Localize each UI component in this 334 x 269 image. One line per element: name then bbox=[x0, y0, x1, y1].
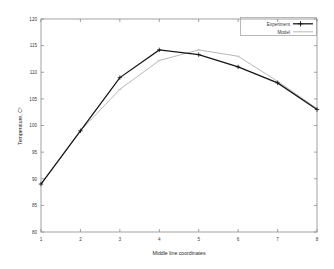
line-chart: 80859095100105110115120 12345678 Middle … bbox=[0, 0, 334, 269]
y-tick-label: 80 bbox=[32, 230, 38, 235]
y-tick-label: 90 bbox=[32, 177, 38, 182]
legend-item-model: Model bbox=[277, 30, 290, 35]
y-tick-label: 100 bbox=[29, 123, 37, 128]
series-line-experiment bbox=[41, 50, 317, 184]
series-line-model bbox=[41, 50, 317, 184]
series-markers-model bbox=[39, 50, 318, 184]
legend-item-experiment: Experiment bbox=[267, 22, 291, 27]
x-tick-label: 6 bbox=[237, 237, 240, 242]
y-axis-label: Temperature, C⁰ bbox=[17, 107, 23, 145]
chart-container: 80859095100105110115120 12345678 Middle … bbox=[0, 0, 334, 269]
x-tick-label: 2 bbox=[79, 237, 82, 242]
x-tick-label: 3 bbox=[119, 237, 122, 242]
y-axis-ticks: 80859095100105110115120 bbox=[29, 17, 317, 235]
plot-frame bbox=[41, 19, 317, 232]
series-markers-experiment bbox=[39, 48, 319, 187]
y-tick-label: 95 bbox=[32, 150, 38, 155]
y-tick-label: 105 bbox=[29, 97, 37, 102]
x-tick-label: 5 bbox=[197, 237, 200, 242]
x-tick-label: 4 bbox=[158, 237, 161, 242]
x-tick-label: 1 bbox=[40, 237, 43, 242]
y-tick-label: 110 bbox=[30, 70, 38, 75]
y-tick-label: 85 bbox=[32, 203, 38, 208]
chart-legend: Experiment Model bbox=[241, 18, 317, 36]
x-tick-label: 7 bbox=[276, 237, 279, 242]
y-tick-label: 120 bbox=[29, 17, 37, 22]
y-tick-label: 115 bbox=[30, 43, 38, 48]
x-tick-label: 8 bbox=[316, 237, 319, 242]
x-axis-label: Middle line coordinates bbox=[152, 250, 205, 256]
series-layer bbox=[39, 48, 319, 187]
